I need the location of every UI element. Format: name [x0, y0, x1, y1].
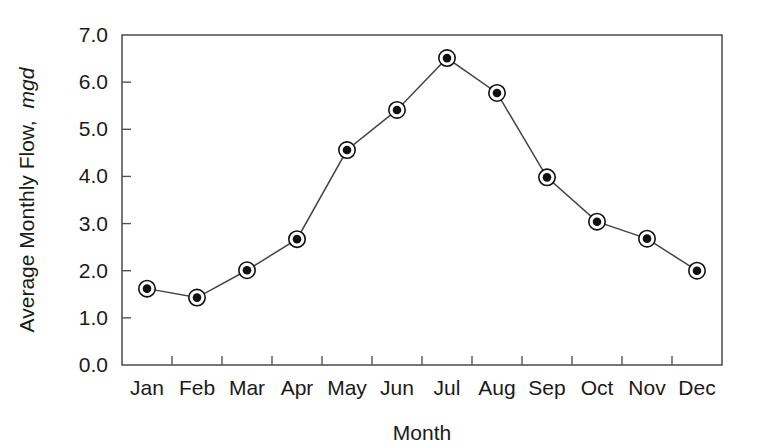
- y-axis-title: Average Monthly Flow, mgd: [15, 66, 38, 332]
- x-tick-label: Jun: [380, 376, 414, 399]
- marker-dot: [243, 266, 252, 275]
- marker-dot: [593, 217, 602, 226]
- y-tick-label: 5.0: [79, 117, 108, 140]
- marker-dot: [443, 54, 452, 63]
- marker-dot: [543, 173, 552, 182]
- x-tick-label: Dec: [678, 376, 715, 399]
- data-point-marker: [389, 102, 405, 118]
- chart-page: 7.06.05.04.03.02.01.00.0 JanFebMarAprMay…: [0, 0, 761, 448]
- data-point-marker: [289, 231, 305, 247]
- data-point-marker: [639, 230, 655, 246]
- marker-dot: [143, 284, 152, 293]
- x-axis-title-text: Month: [393, 421, 451, 444]
- x-tick-label: Apr: [281, 376, 314, 399]
- marker-dot: [293, 235, 302, 244]
- data-point-marker: [239, 262, 255, 278]
- marker-dot: [193, 293, 202, 302]
- x-tick-label: Oct: [581, 376, 614, 399]
- x-tick-label: Feb: [179, 376, 215, 399]
- x-tick-label: Nov: [628, 376, 666, 399]
- y-tick-label: 0.0: [79, 353, 108, 376]
- x-tick-label: Mar: [229, 376, 265, 399]
- y-tick-label: 4.0: [79, 164, 108, 187]
- marker-dot: [493, 89, 502, 98]
- y-axis-title-text: Average Monthly Flow, mgd: [15, 66, 38, 332]
- data-point-marker: [539, 169, 555, 185]
- y-axis-title-unit: mgd: [15, 66, 38, 108]
- data-point-marker: [339, 142, 355, 158]
- x-axis-title: Month: [393, 421, 451, 444]
- data-point-marker: [439, 50, 455, 66]
- y-tick-label: 6.0: [79, 70, 108, 93]
- x-tick-label: Aug: [478, 376, 515, 399]
- line-chart: 7.06.05.04.03.02.01.00.0 JanFebMarAprMay…: [0, 0, 761, 448]
- y-tick-label: 7.0: [79, 23, 108, 46]
- data-point-marker: [139, 280, 155, 296]
- marker-dot: [393, 106, 402, 115]
- y-tick-label: 3.0: [79, 212, 108, 235]
- x-tick-label: May: [327, 376, 367, 399]
- data-point-marker: [689, 263, 705, 279]
- data-point-marker: [489, 85, 505, 101]
- marker-dot: [693, 266, 702, 275]
- y-tick-label: 2.0: [79, 259, 108, 282]
- marker-dot: [643, 234, 652, 243]
- x-tick-label: Sep: [528, 376, 565, 399]
- y-tick-label: 1.0: [79, 306, 108, 329]
- data-point-marker: [589, 213, 605, 229]
- y-axis-title-main: Average Monthly Flow,: [15, 120, 38, 332]
- data-point-marker: [189, 289, 205, 305]
- x-tick-label: Jan: [130, 376, 164, 399]
- marker-dot: [343, 146, 352, 155]
- x-tick-label: Jul: [434, 376, 461, 399]
